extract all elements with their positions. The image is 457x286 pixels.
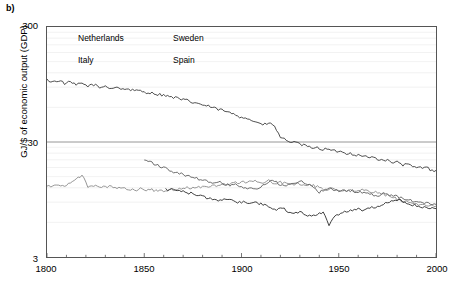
- x-tick-1800: 1800: [26, 263, 66, 274]
- x-tick-2000: 2000: [417, 263, 457, 274]
- legend-item-italy: Italy: [54, 55, 149, 65]
- legend-row-2: Italy Spain: [54, 55, 234, 65]
- chart-legend: Netherlands Sweden Italy Spain: [54, 33, 234, 77]
- legend-item-netherlands: Netherlands: [54, 33, 149, 43]
- series-line-italy: [166, 188, 436, 225]
- legend-label-italy: Italy: [78, 55, 94, 65]
- panel-label: b): [6, 3, 15, 13]
- legend-row-1: Netherlands Sweden: [54, 33, 234, 43]
- legend-label-sweden: Sweden: [173, 33, 204, 43]
- x-tick-1850: 1850: [124, 263, 164, 274]
- legend-item-sweden: Sweden: [149, 33, 234, 43]
- legend-item-spain: Spain: [149, 55, 234, 65]
- x-axis-tick-marks: [47, 253, 436, 257]
- y-axis-title: GJ/$ of economic output (GDP): [18, 0, 29, 187]
- legend-label-spain: Spain: [173, 55, 195, 65]
- x-tick-1900: 1900: [222, 263, 262, 274]
- x-tick-1950: 1950: [319, 263, 359, 274]
- legend-label-netherlands: Netherlands: [78, 33, 124, 43]
- data-series-group: [47, 79, 436, 226]
- series-line-netherlands: [47, 79, 436, 172]
- series-line-spain: [144, 160, 436, 205]
